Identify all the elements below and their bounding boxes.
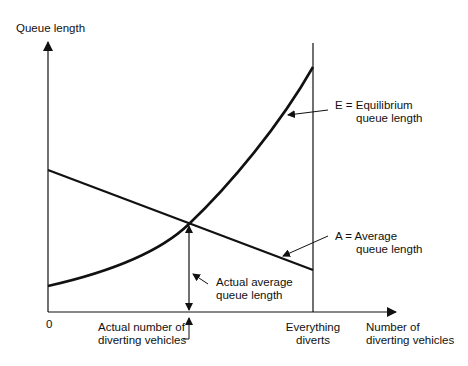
actual-average-label-2: queue length: [216, 289, 283, 302]
line-a-label-2: queue length: [356, 243, 423, 256]
average-queue-line: [48, 170, 313, 270]
x-axis-label-1: Number of: [366, 321, 420, 334]
equilibrium-queue-curve: [48, 67, 313, 286]
actual-number-label-2: diverting vehicles: [98, 334, 186, 347]
curve-e-label-1: E = Equilibrium: [335, 99, 413, 112]
y-axis-label: Queue length: [16, 22, 85, 35]
everything-diverts-label-1: Everything: [283, 321, 343, 334]
line-a-label-1: A = Average: [335, 230, 397, 243]
actual-average-label-1: Actual average: [216, 276, 293, 289]
actual-average-pointer: [193, 274, 208, 284]
average-pointer: [283, 236, 328, 256]
diagram-canvas: [0, 0, 468, 366]
equilibrium-pointer: [288, 110, 328, 115]
actual-number-label-1: Actual number of: [98, 321, 185, 334]
everything-diverts-label-2: diverts: [283, 334, 343, 347]
curve-e-label-2: queue length: [356, 112, 423, 125]
x-axis-label-2: diverting vehicles: [366, 334, 454, 347]
origin-label: 0: [46, 318, 52, 331]
